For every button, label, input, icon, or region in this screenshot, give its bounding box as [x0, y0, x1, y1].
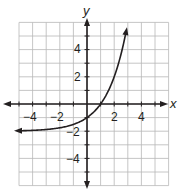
y-tick-label: 4	[74, 42, 81, 56]
x-tick-label: 2	[111, 110, 118, 124]
y-tick-label: −4	[66, 152, 80, 166]
y-tick-label: −2	[66, 125, 80, 139]
x-axis-label: x	[169, 96, 177, 111]
x-tick-label: 4	[138, 110, 145, 124]
x-tick-label: −4	[23, 110, 37, 124]
curve-left-arrow-icon	[14, 128, 22, 134]
x-axis-left-arrow-icon	[3, 101, 11, 107]
y-tick-label: 2	[74, 70, 81, 84]
axes	[3, 18, 168, 189]
x-axis-right-arrow-icon	[160, 101, 168, 107]
x-tick-label: −2	[50, 110, 64, 124]
y-axis-label: y	[82, 3, 91, 18]
y-axis-down-arrow-icon	[84, 181, 90, 189]
coordinate-plane: x y −4 −2 2 4 4 2 −2 −4	[0, 0, 180, 190]
